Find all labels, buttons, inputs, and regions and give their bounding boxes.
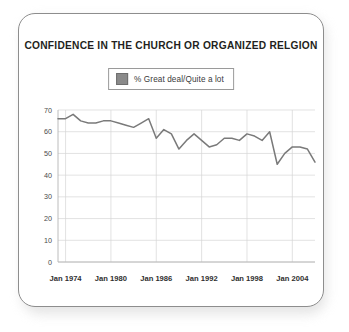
line-chart-svg: 010203040506070Jan 1974Jan 1980Jan 1986J… (19, 102, 325, 302)
y-axis-tick-label: 70 (44, 106, 52, 115)
x-axis-tick-label: Jan 1998 (231, 274, 263, 283)
y-axis-tick-label: 30 (44, 192, 52, 201)
x-axis-tick-label: Jan 2004 (276, 274, 309, 283)
chart-card: CONFIDENCE IN THE CHURCH OR ORGANIZED RE… (18, 13, 324, 307)
x-axis-tick-label: Jan 1974 (50, 274, 83, 283)
legend-item-label: % Great deal/Quite a lot (134, 75, 224, 84)
y-axis-tick-label: 20 (44, 214, 52, 223)
y-axis-tick-label: 50 (44, 149, 52, 158)
legend-swatch-icon (116, 73, 128, 85)
plot-area: 010203040506070Jan 1974Jan 1980Jan 1986J… (19, 102, 323, 302)
y-axis-tick-label: 40 (44, 171, 52, 180)
x-axis-tick-label: Jan 1986 (140, 274, 172, 283)
y-axis-tick-label: 10 (44, 236, 52, 245)
x-axis-tick-label: Jan 1992 (186, 274, 218, 283)
y-axis-tick-label: 60 (44, 127, 52, 136)
page-title: CONFIDENCE IN THE CHURCH OR ORGANIZED RE… (19, 40, 323, 51)
chart-legend: % Great deal/Quite a lot (108, 68, 234, 90)
chart-screenshot: CONFIDENCE IN THE CHURCH OR ORGANIZED RE… (0, 0, 349, 332)
data-series-line (58, 114, 315, 164)
x-axis-tick-label: Jan 1980 (95, 274, 127, 283)
y-axis-tick-label: 0 (48, 258, 52, 267)
